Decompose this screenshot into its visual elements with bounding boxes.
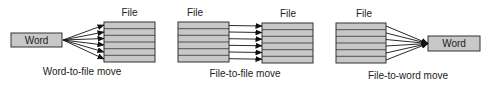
target-file-box (262, 23, 313, 63)
file-box (104, 22, 155, 62)
source-file-box (178, 22, 229, 62)
caption-word-to-file: Word-to-file move (43, 66, 122, 77)
file-box (336, 23, 386, 63)
file-box-label: File (121, 7, 138, 18)
fan-out-arrows (63, 25, 104, 59)
move-diagrams: Word File Word-to-file move (0, 0, 491, 89)
caption-file-to-word: File-to-word move (368, 70, 448, 81)
panel-file-to-word: File Word File-to-word move (336, 8, 480, 81)
panel-file-to-file: File File File-to-file move (178, 7, 313, 79)
panel-word-to-file: Word File Word-to-file move (11, 7, 155, 77)
word-box-label: Word (25, 35, 49, 46)
word-box-label: Word (442, 38, 466, 49)
target-file-label: File (280, 8, 297, 19)
caption-file-to-file: File-to-file move (209, 68, 281, 79)
parallel-arrows (229, 26, 262, 60)
source-file-label: File (187, 7, 204, 18)
file-box-label: File (356, 8, 373, 19)
fan-in-arrows (386, 26, 428, 60)
